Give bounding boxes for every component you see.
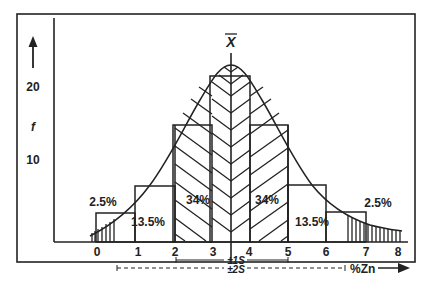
x-tick-2: 2 [172, 245, 179, 259]
pct-left-tail: 2.5% [89, 195, 117, 209]
hatch-34-right [250, 87, 288, 241]
x-tick-7: 7 [363, 245, 370, 259]
y-tick-20: 20 [26, 80, 40, 94]
pct-left-13: 13.5% [131, 215, 165, 229]
x-axis-arrow-icon [378, 263, 410, 273]
x-tick-3: 3 [210, 245, 217, 259]
x-tick-4: 4 [246, 245, 253, 259]
pct-right-13: 13.5% [295, 215, 329, 229]
pct-left-34: 34% [186, 193, 210, 207]
x-tick-1: 1 [135, 245, 142, 259]
x-axis-label: %Zn [350, 262, 375, 276]
x-tick-6: 6 [323, 245, 330, 259]
y-axis-arrow-icon [29, 36, 38, 68]
bar-2-3 [173, 125, 212, 242]
two-s-label: ±2S [227, 264, 245, 275]
pct-right-tail: 2.5% [364, 196, 392, 210]
x-tick-0: 0 [94, 245, 101, 259]
pct-right-34: 34% [255, 193, 279, 207]
x-tick-5: 5 [285, 245, 292, 259]
x-tick-labels: 0 1 2 3 4 5 6 7 8 [94, 245, 402, 259]
y-axis-label: f [31, 120, 36, 134]
figure-frame [17, 14, 415, 262]
y-tick-10: 10 [26, 153, 40, 167]
x-tick-8: 8 [395, 245, 402, 259]
normal-curve [90, 65, 402, 236]
mean-label: X [225, 34, 237, 50]
bar-1-2 [135, 186, 175, 242]
bar-3-4 [210, 76, 250, 242]
normal-distribution-histogram: X 20 f 10 2.5% 13.5% 34% 34% 13.5% 2.5% … [0, 0, 431, 288]
